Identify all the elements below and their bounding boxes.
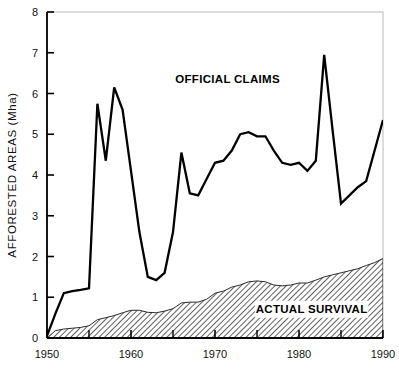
- x-tick-label-1970: 1970: [203, 348, 227, 360]
- y-tick-label-6: 6: [32, 88, 38, 100]
- x-tick-label-1990: 1990: [371, 348, 395, 360]
- x-axis-tick-labels: 19501960197019801990: [35, 348, 395, 360]
- annotation-label-actual-survival: ACTUAL SURVIVAL: [256, 303, 368, 315]
- y-tick-label-1: 1: [32, 291, 38, 303]
- y-tick-label-8: 8: [32, 6, 38, 18]
- y-axis-tick-labels: 012345678: [32, 6, 38, 344]
- y-tick-label-4: 4: [32, 169, 38, 181]
- y-tick-label-2: 2: [32, 251, 38, 263]
- y-tick-label-0: 0: [32, 332, 38, 344]
- x-tick-label-1980: 1980: [287, 348, 311, 360]
- y-axis-title: AFFORESTED AREAS (Mha): [6, 92, 18, 257]
- annotation-label-official-claims: OFFICIAL CLAIMS: [175, 73, 280, 85]
- afforested-areas-chart: 012345678 19501960197019801990 AFFORESTE…: [0, 0, 399, 386]
- y-tick-label-5: 5: [32, 128, 38, 140]
- chart-canvas: 012345678 19501960197019801990 AFFORESTE…: [0, 0, 399, 386]
- y-tick-label-3: 3: [32, 210, 38, 222]
- x-tick-label-1960: 1960: [119, 348, 143, 360]
- x-tick-label-1950: 1950: [35, 348, 59, 360]
- y-tick-label-7: 7: [32, 47, 38, 59]
